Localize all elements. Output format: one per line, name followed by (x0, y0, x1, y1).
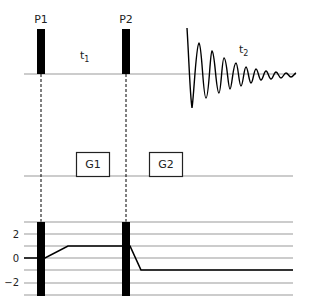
pulse-p2-label: P2 (119, 13, 133, 26)
coherence-gridlines (24, 222, 293, 295)
delay-t1-label: t1 (80, 49, 89, 64)
delay-t2-label: t2 (239, 43, 248, 58)
pulse-p1 (37, 29, 45, 74)
coherence-pulse-p1 (37, 222, 45, 296)
coherence-tick-0: 0 (13, 253, 19, 264)
coherence-tick-minus2: −2 (4, 277, 19, 288)
coherence-pulse-p2 (122, 222, 130, 296)
gradient-g2-label: G2 (158, 158, 174, 171)
pulse-p2 (122, 29, 130, 74)
pulse-sequence-diagram: P1 P2 t1 t2 G1 G2 2 0 −2 (0, 0, 311, 307)
coherence-tick-2: 2 (13, 229, 19, 240)
fid-signal (187, 28, 296, 108)
gradient-g1-label: G1 (85, 158, 101, 171)
pulse-p1-label: P1 (34, 13, 48, 26)
